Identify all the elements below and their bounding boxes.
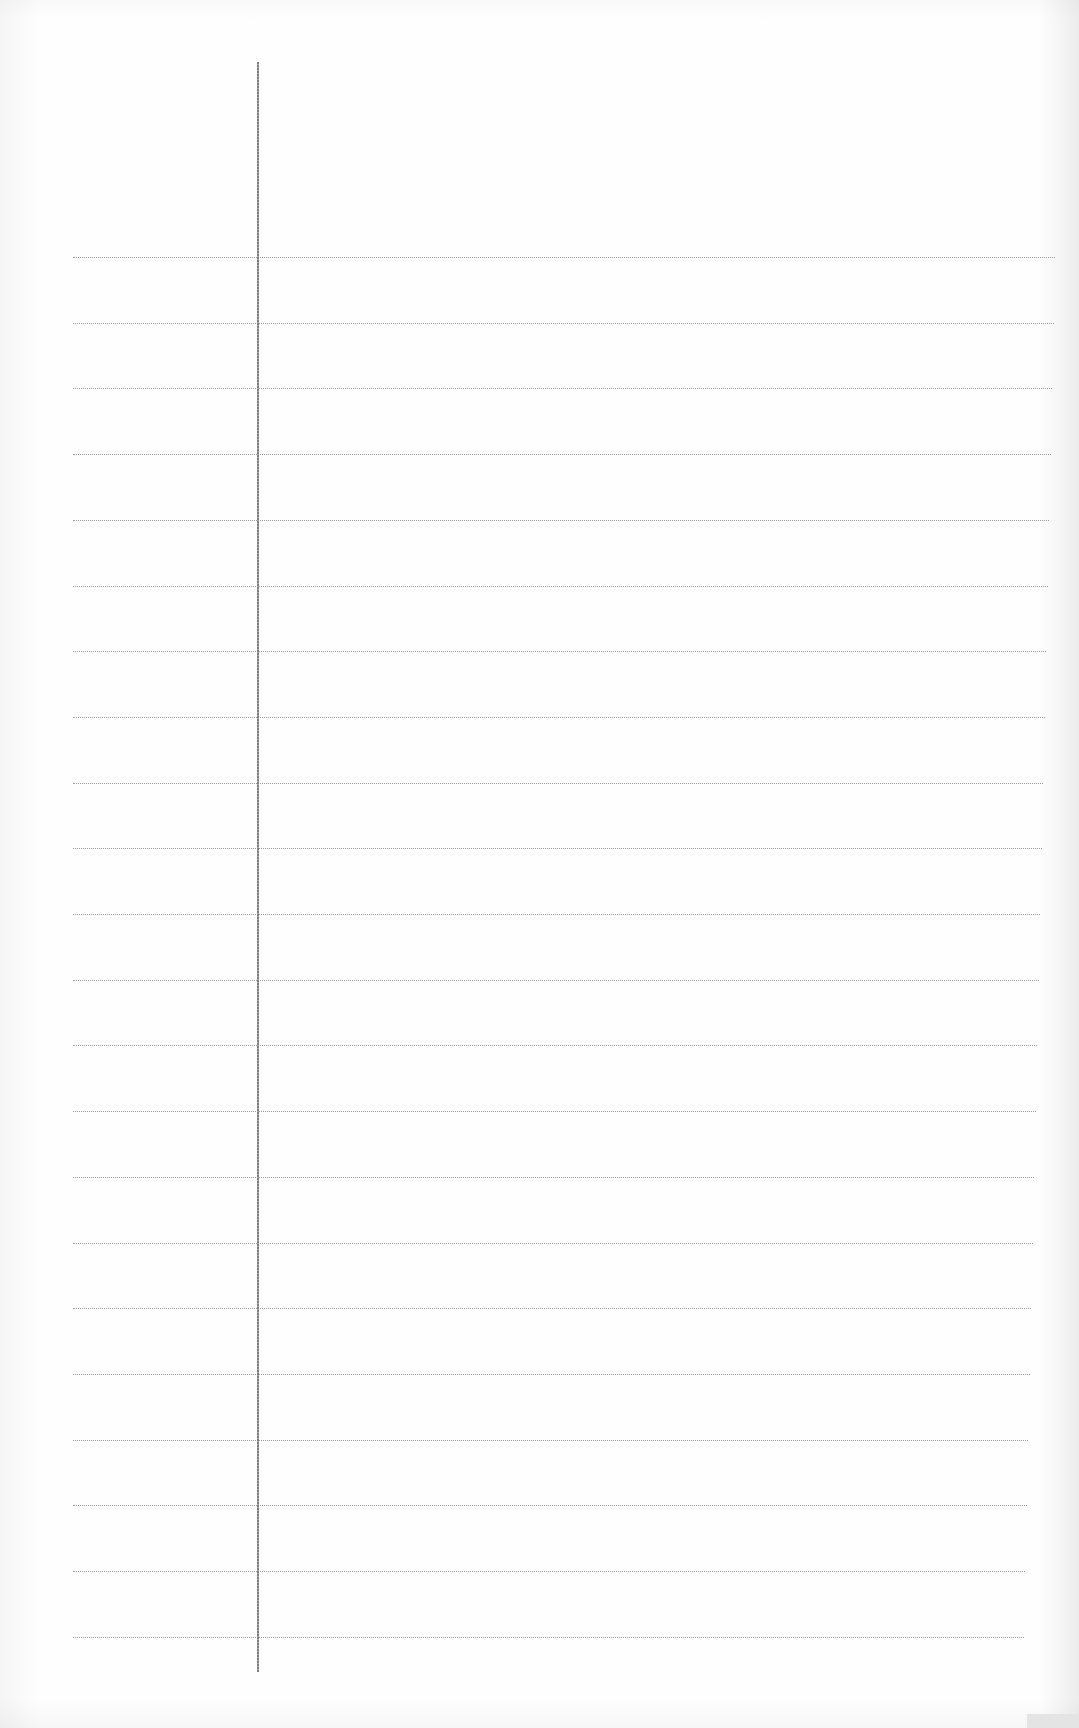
rule-line	[73, 980, 1039, 981]
rule-line	[73, 257, 1055, 258]
ruled-lines	[0, 0, 1079, 1728]
lined-paper-page	[0, 0, 1079, 1728]
rule-line	[73, 1243, 1033, 1244]
rule-line	[73, 323, 1054, 324]
rule-line	[73, 586, 1048, 587]
rule-line	[73, 1045, 1037, 1046]
rule-line	[73, 717, 1045, 718]
rule-line	[73, 914, 1040, 915]
rule-line	[73, 1505, 1027, 1506]
rule-line	[73, 1637, 1024, 1638]
rule-line	[73, 388, 1052, 389]
rule-line	[73, 1440, 1028, 1441]
bottom-right-corner-shadow	[1027, 1714, 1079, 1728]
rule-line	[73, 1374, 1030, 1375]
rule-line	[73, 1111, 1036, 1112]
vertical-margin-line	[257, 62, 259, 1672]
rule-line	[73, 1308, 1031, 1309]
rule-line	[73, 1571, 1025, 1572]
rule-line	[73, 848, 1042, 849]
rule-line	[73, 783, 1043, 784]
rule-line	[73, 1177, 1034, 1178]
rule-line	[73, 520, 1049, 521]
rule-line	[73, 651, 1046, 652]
rule-line	[73, 454, 1051, 455]
